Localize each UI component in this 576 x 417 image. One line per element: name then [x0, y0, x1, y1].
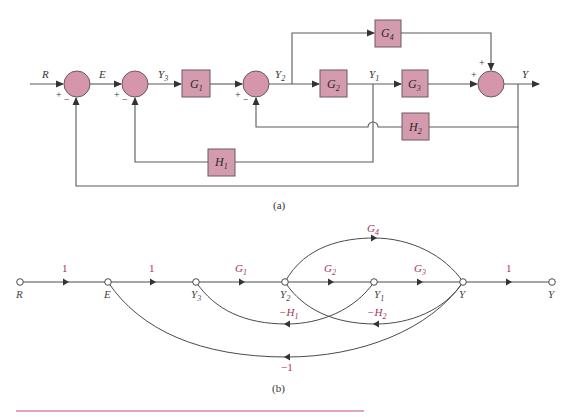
sum4-plus-sign-left: + — [471, 69, 477, 80]
sum4-plus-sign-top: + — [479, 57, 485, 68]
signal-label-y: Y — [522, 68, 530, 80]
caption-b: (b) — [272, 382, 285, 395]
arrow-icon — [417, 279, 423, 286]
signal-label-e: E — [98, 68, 106, 80]
sum3-minus-sign: − — [243, 94, 249, 105]
block-diagram: + − + − + − + + G1 G2 G3 G4 H1 H2 — [30, 20, 539, 212]
arrow-icon — [150, 279, 156, 286]
sfg-node-y — [460, 279, 467, 286]
gain-label-y-yout: 1 — [506, 262, 512, 274]
sum2-minus-sign: − — [122, 94, 128, 105]
sum1-plus-sign: + — [56, 89, 62, 100]
wire-y-to-h2 — [429, 84, 518, 127]
sfg-node-y1 — [371, 279, 378, 286]
node-label-y3: Y3 — [191, 288, 201, 303]
signal-label-y2: Y2 — [275, 68, 285, 83]
node-label-y2: Y2 — [280, 288, 290, 303]
node-label-y-output: Y — [548, 288, 556, 300]
figure-canvas: + − + − + − + + G1 G2 G3 G4 H1 H2 — [0, 0, 576, 417]
node-label-y1: Y1 — [374, 288, 384, 303]
gain-label-h1: −H1 — [279, 306, 298, 321]
block-h1: H1 — [208, 149, 235, 176]
sfg-node-e — [105, 279, 112, 286]
wire-h2-to-sum3 — [256, 98, 402, 127]
sfg-node-y-output — [549, 279, 556, 286]
arrow-icon — [239, 279, 245, 286]
block-g4: G4 — [375, 20, 401, 47]
wire-h1-to-sum2 — [135, 98, 208, 162]
wire-g4-to-sum4 — [401, 33, 491, 70]
sum2-plus-sign: + — [114, 89, 120, 100]
node-label-y: Y — [459, 288, 467, 300]
arrow-icon — [284, 321, 290, 328]
arrow-icon — [506, 279, 512, 286]
signal-label-y3: Y3 — [158, 68, 168, 83]
node-label-r: R — [15, 288, 23, 300]
arrow-icon — [63, 279, 69, 286]
gain-label-e-y3: 1 — [149, 262, 155, 274]
gain-label-g2: G2 — [324, 262, 336, 277]
sfg-node-y2 — [282, 279, 289, 286]
arrow-icon — [373, 321, 379, 328]
summing-junction-4 — [478, 71, 504, 97]
arrow-icon — [284, 354, 290, 361]
gain-label-h2: −H2 — [367, 306, 386, 321]
sfg-edge-y2-y-g4 — [285, 238, 463, 282]
node-label-e: E — [103, 288, 111, 300]
sum3-plus-sign: + — [235, 89, 241, 100]
signal-flow-graph: R E Y3 Y2 Y1 Y Y 1 1 G1 G2 G3 G4 1 −H1 −… — [15, 222, 556, 395]
block-g1: G1 — [182, 70, 210, 97]
sfg-node-r — [17, 279, 24, 286]
signal-label-y1: Y1 — [369, 68, 379, 83]
sum1-minus-sign: − — [64, 94, 70, 105]
gain-label-r-e: 1 — [62, 262, 68, 274]
arrow-icon — [328, 279, 334, 286]
gain-label-g4: G4 — [367, 222, 379, 237]
block-h2: H2 — [402, 113, 429, 140]
wire-unity-feedback — [76, 98, 518, 186]
gain-label-g1: G1 — [235, 262, 247, 277]
signal-label-r: R — [41, 68, 49, 80]
sfg-node-y3 — [193, 279, 200, 286]
gain-label-g3: G3 — [414, 262, 426, 277]
block-g3: G3 — [402, 70, 428, 97]
gain-label-unity-feedback: −1 — [281, 361, 293, 373]
block-g2: G2 — [320, 70, 347, 97]
caption-a: (a) — [273, 199, 286, 212]
